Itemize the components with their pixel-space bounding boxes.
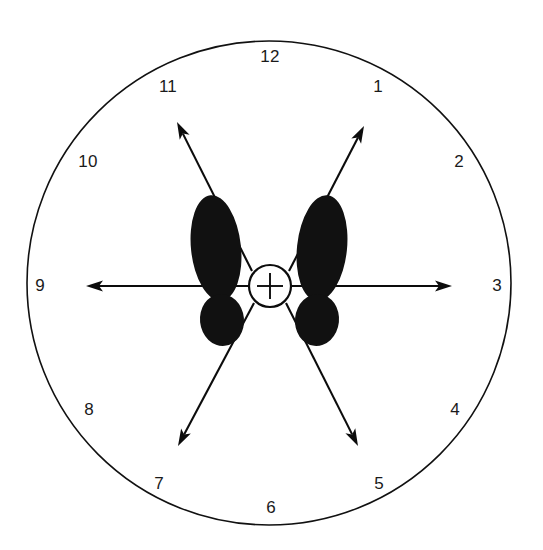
ray-5-oclock-arrowhead-icon	[345, 428, 358, 446]
left-foot-heel-icon	[197, 292, 246, 348]
clock-number-8: 8	[84, 400, 94, 419]
clock-number-4: 4	[450, 400, 460, 419]
clock-number-9: 9	[35, 276, 45, 295]
clock-number-10: 10	[78, 152, 97, 171]
clock-number-3: 3	[492, 276, 502, 295]
right-foot-heel-icon	[292, 292, 341, 348]
ray-7-oclock-arrowhead-icon	[178, 428, 191, 446]
center-reference-point	[249, 265, 291, 307]
ray-1-oclock-arrowhead-icon	[351, 126, 364, 144]
clock-number-11: 11	[159, 77, 177, 96]
clock-number-12: 12	[260, 47, 279, 66]
ray-11-oclock-arrowhead-icon	[177, 122, 190, 140]
clock-face-foot-position-diagram: 121234567891011	[0, 0, 543, 550]
clock-number-2: 2	[454, 152, 464, 171]
clock-number-6: 6	[266, 498, 276, 517]
clock-number-1: 1	[373, 77, 383, 96]
clock-number-7: 7	[154, 474, 164, 493]
clock-number-5: 5	[374, 474, 384, 493]
clock-diagram-canvas: 121234567891011	[0, 0, 543, 550]
